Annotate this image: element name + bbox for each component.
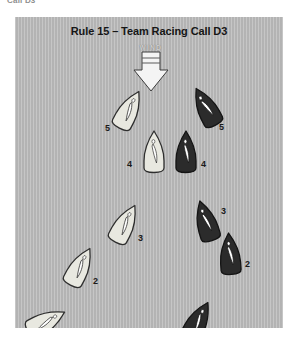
wind-indicator: WIND <box>131 44 171 94</box>
racing-diagram-panel: Rule 15 – Team Racing Call D3 WIND 55443… <box>15 17 283 328</box>
boat-dark-5: 5 <box>193 85 219 129</box>
boat-light-1: 1 <box>33 300 59 328</box>
boat-dark-2-label: 2 <box>245 260 250 269</box>
boat-light-4-label: 4 <box>127 160 132 169</box>
boat-light-4-hull-icon <box>141 130 167 174</box>
boat-dark-2: 2 <box>217 232 243 276</box>
boat-light-3-label: 3 <box>138 234 143 243</box>
boat-dark-4: 4 <box>173 130 199 174</box>
boat-light-1-hull-icon <box>20 300 71 328</box>
boat-light-5-label: 5 <box>105 124 110 133</box>
diagram-title: Rule 15 – Team Racing Call D3 <box>15 25 283 37</box>
boat-light-2: 2 <box>67 245 93 289</box>
boat-light-2-label: 2 <box>93 277 98 286</box>
boat-light-3: 3 <box>112 202 138 246</box>
boat-light-5: 5 <box>116 88 142 132</box>
boat-dark-5-label: 5 <box>219 123 224 132</box>
boat-dark-4-hull-icon <box>173 130 199 174</box>
boat-dark-1-hull-icon <box>176 295 220 328</box>
boat-dark-3-label: 3 <box>221 207 226 216</box>
boat-dark-2-hull-icon <box>215 231 244 277</box>
boat-dark-1: 1 <box>185 299 211 328</box>
boat-light-4: 4 <box>141 130 167 174</box>
boat-dark-4-label: 4 <box>201 160 206 169</box>
cropped-page-header: Call D3 <box>7 0 36 5</box>
